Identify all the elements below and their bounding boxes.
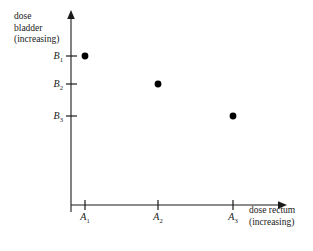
x-axis-caption: dose rectum (increasing): [249, 205, 295, 228]
x-tick-label-a1-subscript: 1: [86, 217, 89, 224]
y-tick-label-b2-subscript: 2: [60, 84, 63, 91]
scatter-plot-figure: dose bladder (increasing) dose rectum (i…: [0, 0, 313, 251]
x-axis-caption-line-1: dose rectum: [249, 205, 295, 217]
y-tick-label-b1: B1: [41, 51, 63, 61]
y-axis-caption-line-1: dose: [14, 11, 59, 23]
x-tick-label-a3: A3: [223, 212, 243, 222]
x-tick-label-a2: A2: [148, 212, 168, 222]
data-points: [82, 53, 237, 120]
y-tick-label-b3: B3: [41, 111, 63, 121]
y-axis-caption-line-2: bladder: [14, 23, 59, 35]
y-axis-arrowhead: [67, 10, 75, 19]
y-axis-caption: dose bladder (increasing): [14, 11, 59, 46]
x-tick-label-a3-subscript: 3: [234, 217, 237, 224]
data-point: [82, 53, 89, 60]
y-tick-label-b2: B2: [41, 79, 63, 89]
x-tick-label-a2-subscript: 2: [159, 217, 162, 224]
data-point: [230, 113, 237, 120]
x-axis-caption-line-2: (increasing): [249, 217, 295, 229]
y-axis-caption-line-3: (increasing): [14, 34, 59, 46]
x-tick-label-a1: A1: [75, 212, 95, 222]
y-tick-label-b3-subscript: 3: [60, 116, 63, 123]
data-point: [155, 81, 162, 88]
y-tick-label-b1-subscript: 1: [60, 56, 63, 63]
